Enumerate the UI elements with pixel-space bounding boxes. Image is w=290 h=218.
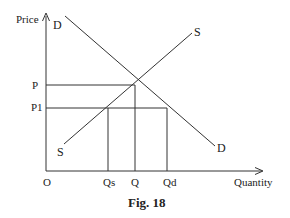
figure-caption: Fig. 18 xyxy=(128,195,166,210)
origin-label: O xyxy=(43,176,51,188)
quantity-label-qs: Qs xyxy=(103,176,115,188)
demand-curve xyxy=(65,16,215,146)
supply-label-top: S xyxy=(194,25,201,39)
quantity-label-q: Q xyxy=(131,176,139,188)
price-label-p: P xyxy=(32,79,38,91)
supply-label-bottom: S xyxy=(57,145,64,159)
demand-label-top: D xyxy=(53,18,62,32)
x-axis-label: Quantity xyxy=(234,176,273,188)
quantity-label-qd: Qd xyxy=(163,176,177,188)
y-axis-label: Price xyxy=(16,13,39,25)
supply-demand-diagram: Price Quantity O P P1 Qs Q Qd D D S S Fi… xyxy=(0,0,290,218)
demand-label-bottom: D xyxy=(217,141,226,155)
supply-curve xyxy=(64,33,192,144)
price-label-p1: P1 xyxy=(31,101,43,113)
